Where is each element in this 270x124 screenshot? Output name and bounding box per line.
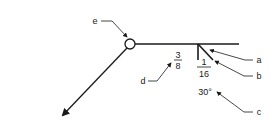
root-opening-fraction: 1 16 bbox=[197, 57, 211, 79]
welding-symbol-diagram: 3 8 1 16 30° e a b c d bbox=[0, 0, 270, 124]
callout-leader-e bbox=[101, 21, 127, 37]
callout-label-e: e bbox=[92, 16, 97, 26]
arrow-line bbox=[63, 48, 127, 115]
callout-leader-a bbox=[210, 50, 253, 60]
callout-leader-b bbox=[215, 61, 253, 76]
root-opening-denominator: 16 bbox=[199, 69, 209, 79]
callout-label-a: a bbox=[256, 55, 261, 65]
weld-all-around-circle bbox=[125, 39, 135, 49]
weld-size-fraction: 3 8 bbox=[174, 50, 182, 71]
diagram-canvas: 3 8 1 16 30° e a b c d bbox=[0, 0, 270, 124]
callout-leader-d bbox=[148, 63, 171, 81]
callout-label-c: c bbox=[257, 107, 262, 117]
weld-size-numerator: 3 bbox=[175, 50, 180, 60]
callout-leader-c bbox=[217, 92, 253, 112]
groove-angle-label: 30° bbox=[198, 87, 212, 97]
weld-size-denominator: 8 bbox=[175, 61, 180, 71]
root-opening-numerator: 1 bbox=[201, 57, 206, 67]
callout-label-d: d bbox=[140, 76, 145, 86]
callout-label-b: b bbox=[256, 71, 261, 81]
